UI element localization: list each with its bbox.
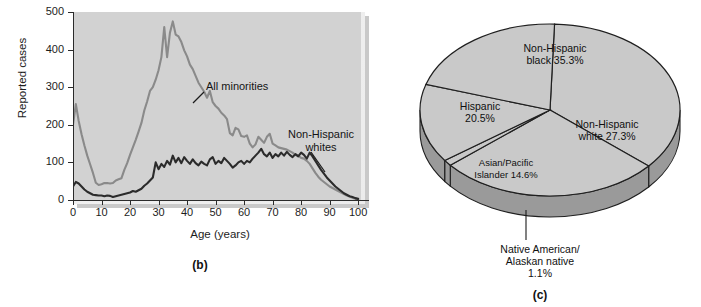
y-axis-tick <box>68 125 74 126</box>
pie-label-native-american: Native American/ Alaskan native 1.1% <box>440 243 640 279</box>
pie-label-non-hispanic-white: Non-Hispanic white 27.3% <box>548 118 666 142</box>
x-axis-tick <box>273 200 274 205</box>
pie-label-native-line3: 1.1% <box>528 267 552 279</box>
series-all-minorities <box>73 21 358 199</box>
y-axis-tick <box>68 12 74 13</box>
x-axis-tick-label: 50 <box>201 206 231 218</box>
x-axis-tick <box>244 200 245 205</box>
plot-area <box>73 12 361 200</box>
pie-label-asian-pacific-islander: Asian/Pacific Islander 14.6% <box>455 157 557 180</box>
panel-b-caption: (b) <box>160 258 240 272</box>
x-axis-tick-label: 10 <box>87 206 117 218</box>
x-axis-tick-label: 60 <box>229 206 259 218</box>
annotation-whites-line2: whites <box>305 141 336 153</box>
pie-label-hispanic-line2: 20.5% <box>465 112 495 124</box>
x-axis-tick <box>159 200 160 205</box>
pie-label-nhblack-line2: black 35.3% <box>526 54 583 66</box>
y-axis-tick <box>68 87 74 88</box>
x-axis-tick <box>330 200 331 205</box>
x-axis-tick <box>73 200 74 205</box>
pie-label-nhblack-line1: Non-Hispanic <box>523 42 586 54</box>
x-axis-line <box>73 200 369 201</box>
panel-c-caption: (c) <box>500 288 580 302</box>
x-axis-tick <box>187 200 188 205</box>
x-axis-tick <box>216 200 217 205</box>
annotation-non-hispanic-whites: Non-Hispanic whites <box>281 128 361 154</box>
y-axis-tick-label: 500 <box>28 6 64 17</box>
annotation-whites-line1: Non-Hispanic <box>288 128 354 140</box>
y-axis-label: Reported cases <box>16 18 28 138</box>
x-axis-tick <box>358 200 359 205</box>
x-axis-tick <box>102 200 103 205</box>
x-axis-tick-label: 0 <box>58 206 88 218</box>
pie-label-hispanic-line1: Hispanic <box>460 100 500 112</box>
x-axis-tick <box>130 200 131 205</box>
pie-chart-panel: Non-Hispanic black 35.3% Non-Hispanic wh… <box>400 0 701 307</box>
pie-label-api-line2: Islander 14.6% <box>474 169 537 180</box>
pie-label-native-line2: Alaskan native <box>506 255 574 267</box>
pie-label-nhwhite-line2: white 27.3% <box>578 130 635 142</box>
pie-label-api-line1: Asian/Pacific <box>479 157 533 168</box>
y-axis-tick-label: 0 <box>28 194 64 205</box>
y-axis-line <box>73 12 74 201</box>
x-axis-tick-label: 20 <box>115 206 145 218</box>
y-axis-tick-label: 100 <box>28 156 64 167</box>
y-axis-tick-label: 200 <box>28 119 64 130</box>
line-chart-panel: 0100200300400500 0102030405060708090100 … <box>0 0 400 307</box>
x-axis-tick-label: 40 <box>172 206 202 218</box>
pie-label-hispanic: Hispanic 20.5% <box>435 100 525 124</box>
x-axis-tick-label: 70 <box>258 206 288 218</box>
line-plot-container <box>73 12 369 208</box>
y-axis-tick <box>68 162 74 163</box>
y-axis-tick-label: 400 <box>28 44 64 55</box>
y-axis-tick <box>68 50 74 51</box>
y-axis-tick-label: 300 <box>28 81 64 92</box>
pie-label-non-hispanic-black: Non-Hispanic black 35.3% <box>495 42 615 66</box>
annotation-all-minorities: All minorities <box>206 80 292 93</box>
x-axis-tick-label: 100 <box>343 206 373 218</box>
x-axis-tick-label: 80 <box>286 206 316 218</box>
x-axis-tick-label: 90 <box>315 206 345 218</box>
pie-label-native-line1: Native American/ <box>500 243 579 255</box>
x-axis-tick <box>301 200 302 205</box>
line-series-svg <box>73 12 361 200</box>
pie-label-nhwhite-line1: Non-Hispanic <box>575 118 638 130</box>
x-axis-tick-label: 30 <box>144 206 174 218</box>
x-axis-label: Age (years) <box>140 228 300 240</box>
